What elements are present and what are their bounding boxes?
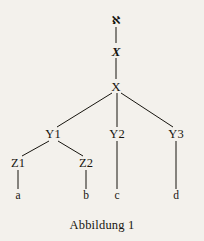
node-z2: Z2: [79, 157, 93, 170]
figure-caption: Abbildung 1: [0, 218, 204, 233]
node-leaf-a: a: [15, 190, 20, 202]
node-y3: Y3: [168, 128, 183, 141]
node-z1: Z1: [11, 157, 25, 170]
node-leaf-c: c: [114, 190, 119, 202]
node-y1: Y1: [45, 128, 60, 141]
edge-x-to-y1: [57, 93, 112, 127]
node-x: X: [111, 80, 120, 93]
node-leaf-b: b: [83, 190, 89, 202]
node-aleph: ℵ: [112, 15, 121, 26]
figure-container: ℵ X X Y1 Y2 Y3 Z1 Z2 a b c d Abbildung 1: [0, 0, 204, 241]
edge-y1-to-z2: [58, 141, 83, 156]
edge-y1-to-z1: [22, 141, 49, 156]
node-leaf-d: d: [173, 190, 179, 202]
node-x-bold-italic: X: [112, 45, 121, 58]
tree-edges: [0, 0, 204, 241]
node-y2: Y2: [109, 128, 124, 141]
edge-x-to-y3: [121, 93, 173, 127]
